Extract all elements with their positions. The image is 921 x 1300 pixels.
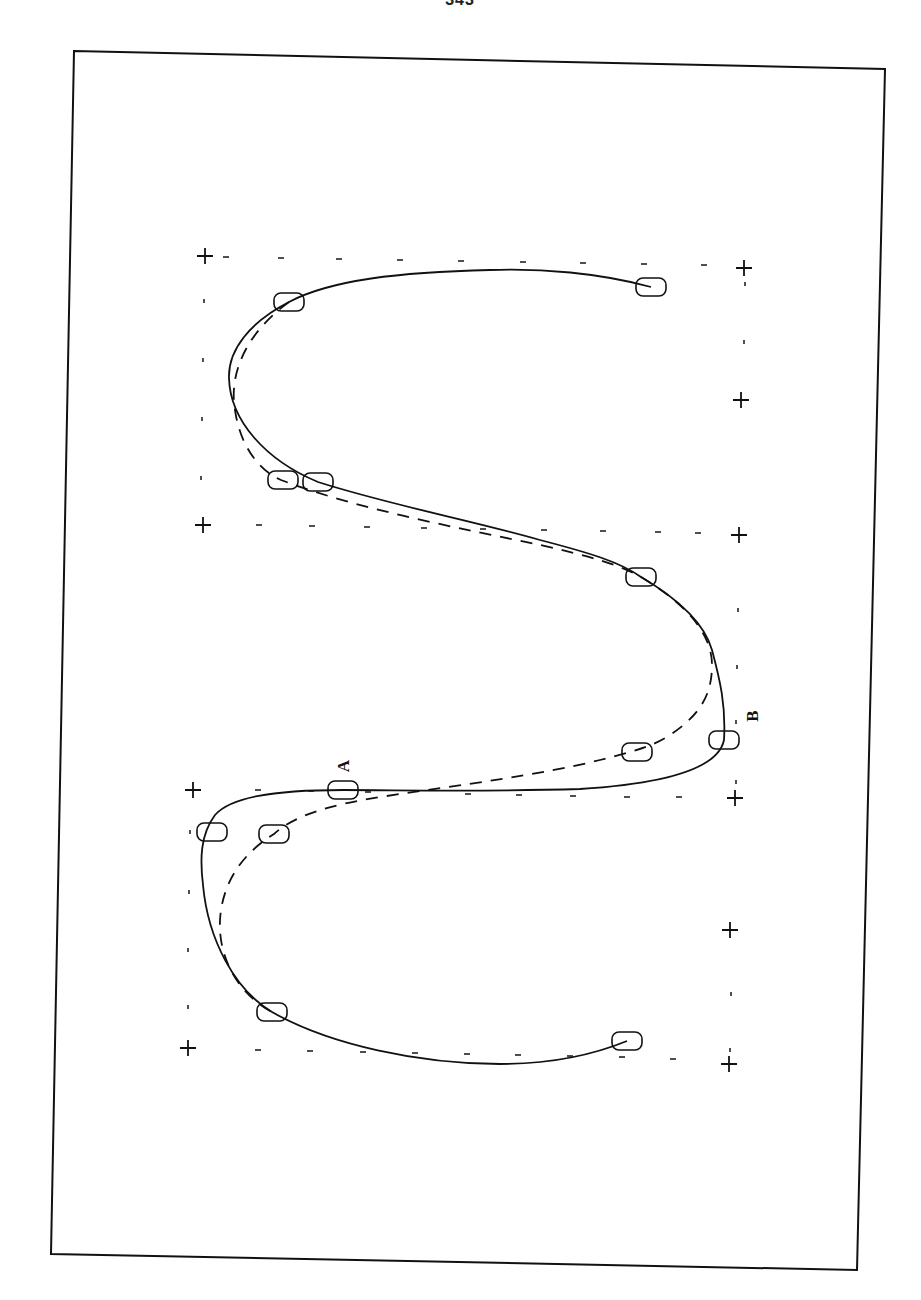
- figure-frame: [51, 51, 885, 1270]
- grid-crosses: [180, 248, 752, 1072]
- label-a: A: [334, 759, 353, 772]
- label-b: B: [743, 710, 762, 721]
- solid-curve: [201, 270, 724, 1064]
- grid-ticks: [188, 257, 745, 1059]
- markers: [197, 278, 739, 1050]
- figure: A B: [0, 0, 921, 1300]
- dashed-curve: [220, 302, 712, 1012]
